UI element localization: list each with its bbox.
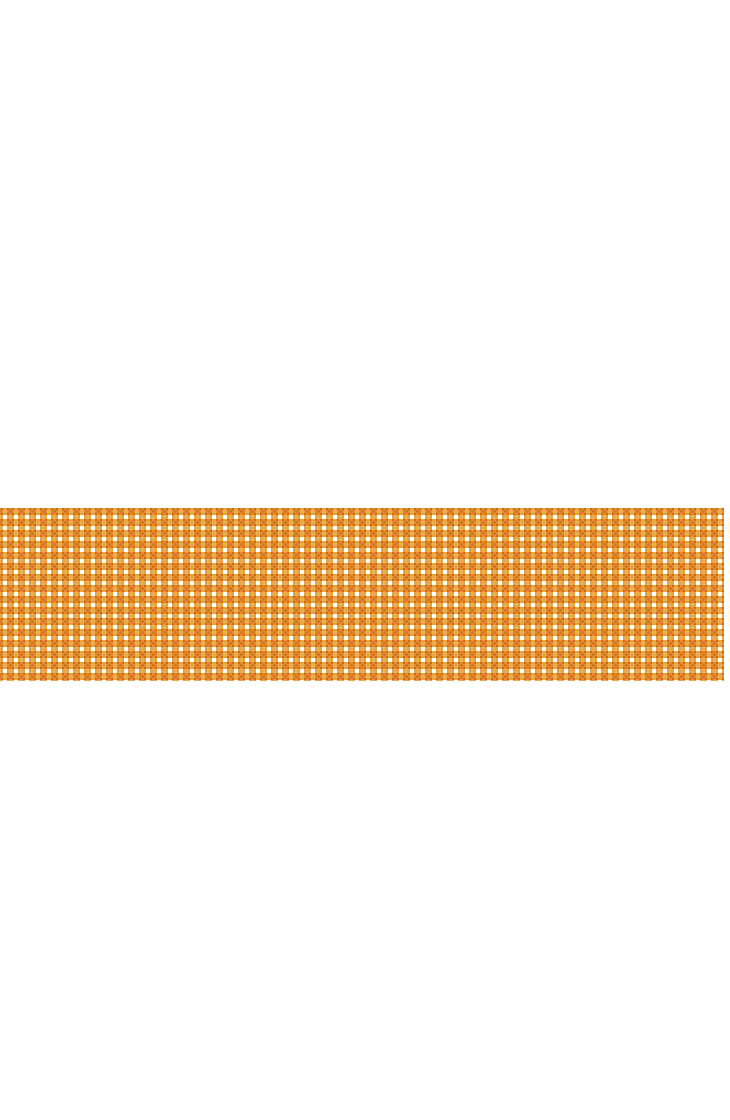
page-canvas: [0, 0, 730, 1120]
checkered-pattern-band: [0, 508, 724, 681]
pattern-dot-highlight: [0, 508, 724, 681]
